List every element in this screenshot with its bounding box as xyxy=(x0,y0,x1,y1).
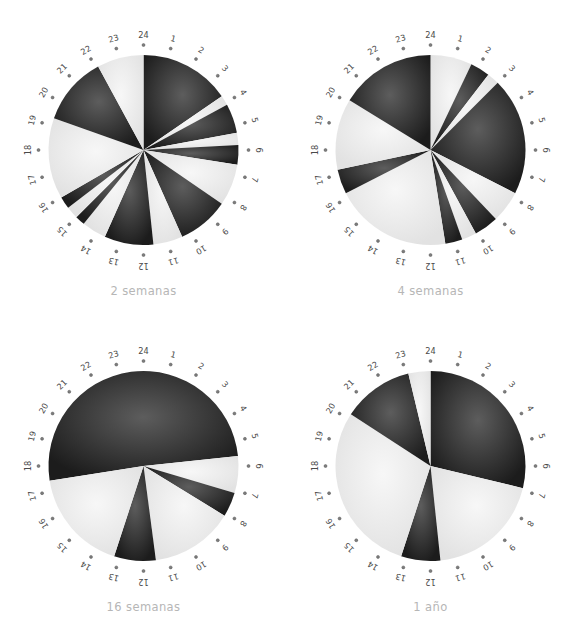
hour-tick-dot xyxy=(355,74,358,77)
hour-tick-dot xyxy=(482,374,485,377)
chart-caption: 1 año xyxy=(287,600,574,614)
hour-tick-label: 5 xyxy=(537,432,548,440)
hour-tick-label: 1 xyxy=(170,349,178,360)
hour-tick-dot xyxy=(169,566,172,569)
clock-pie-svg: 123456789101112131415161718192021222324 xyxy=(0,316,287,603)
clock-pie-svg: 123456789101112131415161718192021222324 xyxy=(287,316,574,603)
hour-tick-label: 24 xyxy=(425,30,435,40)
hour-tick-label: 1 xyxy=(457,349,465,360)
hour-tick-label: 4 xyxy=(525,403,536,413)
hour-tick-label: 5 xyxy=(537,116,548,124)
hour-tick-dot xyxy=(247,465,250,468)
hour-tick-dot xyxy=(377,239,380,242)
hour-tick-dot xyxy=(115,250,118,253)
hour-tick-dot xyxy=(142,254,145,257)
hour-tick-dot xyxy=(338,517,341,520)
hour-tick-label: 18 xyxy=(23,461,33,471)
hour-tick-dot xyxy=(68,223,71,226)
hour-tick-dot xyxy=(243,121,246,124)
chart-panel: 123456789101112131415161718192021222324 … xyxy=(0,0,287,316)
hour-tick-dot xyxy=(503,539,506,542)
hour-tick-dot xyxy=(68,390,71,393)
hour-tick-dot xyxy=(429,570,432,573)
hour-tick-dot xyxy=(142,570,145,573)
hour-tick-label: 4 xyxy=(238,403,249,413)
hour-tick-label: 13 xyxy=(107,571,120,583)
hour-tick-label: 10 xyxy=(481,559,495,573)
clock-face-4-semanas: 123456789101112131415161718192021222324 xyxy=(287,0,574,287)
hour-tick-label: 2 xyxy=(196,44,206,55)
hour-tick-dot xyxy=(243,176,246,179)
hour-tick-label: 6 xyxy=(541,147,551,152)
hour-tick-label: 18 xyxy=(310,461,320,471)
hour-tick-label: 11 xyxy=(167,571,180,583)
hour-tick-dot xyxy=(482,239,485,242)
hour-tick-label: 22 xyxy=(79,359,93,373)
hour-tick-label: 1 xyxy=(170,33,178,44)
hour-tick-dot xyxy=(216,539,219,542)
hour-tick-label: 11 xyxy=(454,255,467,267)
hour-tick-label: 3 xyxy=(220,63,231,74)
hour-tick-label: 16 xyxy=(37,517,51,531)
hour-tick-dot xyxy=(402,250,405,253)
hour-tick-dot xyxy=(328,121,331,124)
hour-tick-dot xyxy=(51,96,54,99)
hour-tick-label: 22 xyxy=(366,359,380,373)
hour-tick-label: 6 xyxy=(541,463,551,468)
clock-chart-grid: 123456789101112131415161718192021222324 … xyxy=(0,0,574,632)
hour-tick-label: 8 xyxy=(238,519,249,529)
hour-tick-dot xyxy=(216,74,219,77)
hour-tick-dot xyxy=(338,96,341,99)
hour-tick-label: 13 xyxy=(394,255,407,267)
hour-tick-dot xyxy=(530,492,533,495)
hour-tick-dot xyxy=(355,223,358,226)
hour-tick-label: 19 xyxy=(313,430,325,443)
hour-tick-dot xyxy=(503,223,506,226)
hour-tick-label: 9 xyxy=(220,226,231,237)
hour-tick-label: 17 xyxy=(26,174,38,187)
hour-tick-label: 20 xyxy=(37,85,51,99)
hour-tick-dot xyxy=(90,555,93,558)
hour-tick-dot xyxy=(142,360,145,363)
chart-caption: 4 semanas xyxy=(287,284,574,298)
hour-tick-dot xyxy=(520,517,523,520)
hour-tick-label: 13 xyxy=(107,255,120,267)
hour-tick-label: 8 xyxy=(525,203,536,213)
hour-tick-label: 23 xyxy=(394,32,407,44)
hour-tick-label: 6 xyxy=(254,147,264,152)
hour-tick-dot xyxy=(216,390,219,393)
hour-tick-dot xyxy=(429,44,432,47)
hour-tick-label: 17 xyxy=(26,490,38,503)
hour-tick-label: 10 xyxy=(194,243,208,257)
clock-pie-svg: 123456789101112131415161718192021222324 xyxy=(287,0,574,287)
hour-tick-label: 15 xyxy=(55,540,69,554)
pie-wedges xyxy=(336,55,526,245)
hour-tick-dot xyxy=(90,239,93,242)
hour-tick-dot xyxy=(503,390,506,393)
hour-tick-dot xyxy=(169,363,172,366)
clock-face-16-semanas: 123456789101112131415161718192021222324 xyxy=(0,316,287,603)
hour-tick-label: 17 xyxy=(313,174,325,187)
hour-tick-label: 23 xyxy=(107,32,120,44)
hour-tick-dot xyxy=(195,555,198,558)
hour-tick-label: 1 xyxy=(457,33,465,44)
hour-tick-label: 8 xyxy=(238,203,249,213)
hour-tick-label: 16 xyxy=(37,201,51,215)
hour-tick-label: 15 xyxy=(342,540,356,554)
hour-tick-dot xyxy=(142,44,145,47)
hour-tick-dot xyxy=(90,374,93,377)
hour-tick-label: 2 xyxy=(483,360,493,371)
hour-tick-dot xyxy=(338,201,341,204)
hour-tick-dot xyxy=(328,492,331,495)
hour-tick-label: 15 xyxy=(342,224,356,238)
hour-tick-label: 19 xyxy=(313,114,325,127)
hour-tick-label: 16 xyxy=(324,517,338,531)
hour-tick-dot xyxy=(402,363,405,366)
hour-tick-dot xyxy=(534,149,537,152)
hour-tick-label: 18 xyxy=(310,145,320,155)
hour-tick-dot xyxy=(195,58,198,61)
hour-tick-dot xyxy=(456,566,459,569)
hour-tick-label: 21 xyxy=(55,61,69,75)
hour-tick-label: 22 xyxy=(366,43,380,57)
hour-tick-dot xyxy=(247,149,250,152)
